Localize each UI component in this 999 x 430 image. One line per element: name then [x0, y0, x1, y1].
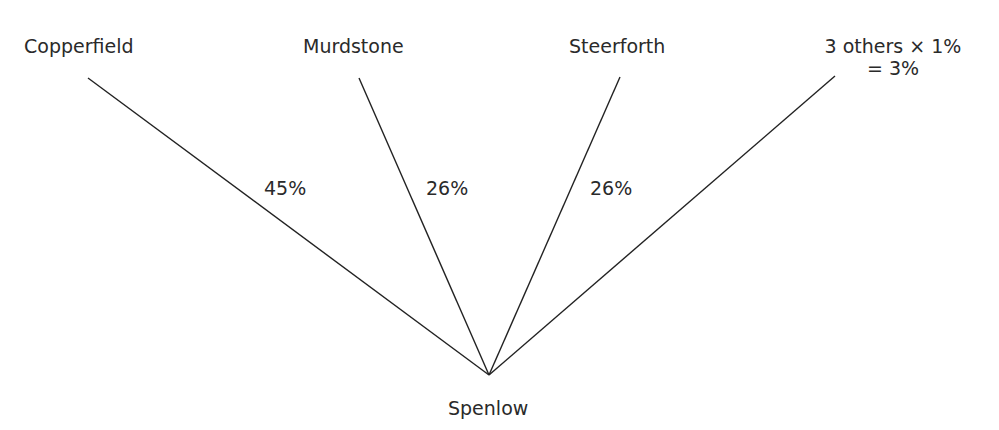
label-others: 3 others × 1% = 3%	[818, 35, 968, 79]
line-others	[489, 76, 835, 375]
label-others-line2: = 3%	[818, 57, 968, 79]
percent-murdstone: 26%	[426, 177, 468, 199]
line-murdstone	[359, 78, 489, 375]
label-copperfield: Copperfield	[24, 35, 134, 57]
line-steerforth	[489, 77, 620, 375]
percent-steerforth: 26%	[590, 177, 632, 199]
label-spenlow: Spenlow	[448, 397, 528, 419]
line-copperfield	[88, 78, 489, 375]
label-murdstone: Murdstone	[303, 35, 404, 57]
label-others-line1: 3 others × 1%	[818, 35, 968, 57]
percent-copperfield: 45%	[264, 177, 306, 199]
label-steerforth: Steerforth	[569, 35, 665, 57]
